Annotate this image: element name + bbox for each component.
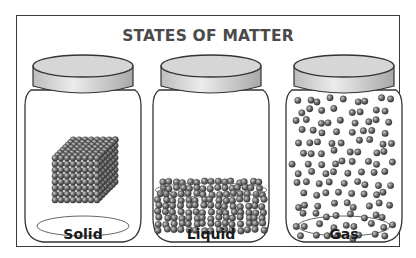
- gas-label: Gas: [294, 226, 394, 242]
- jars-illustration: [0, 0, 416, 258]
- gas-jar: [286, 55, 402, 242]
- solid-label: Solid: [33, 226, 133, 242]
- liquid-jar: [153, 55, 269, 242]
- solid-jar: [25, 55, 141, 242]
- liquid-label: Liquid: [161, 226, 261, 242]
